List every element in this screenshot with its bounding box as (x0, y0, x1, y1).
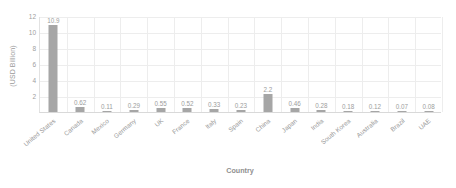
bar-value-label: 0.11 (101, 103, 113, 110)
x-axis-category-label: Canada (62, 117, 84, 137)
x-label-slot: China (253, 115, 280, 161)
x-label-slot: UAE (414, 115, 441, 161)
x-label-slot: Spain (227, 115, 254, 161)
bar-slot: 0.52 (174, 17, 201, 112)
bar-value-label: 0.18 (342, 103, 354, 110)
x-label-slot: Brazil (387, 115, 414, 161)
y-axis-tick: 2 (32, 94, 36, 100)
x-axis-category-label: UK (153, 117, 164, 128)
bar-value-label: 0.29 (128, 102, 140, 109)
bar-value-label: 0.28 (315, 102, 327, 109)
bar[interactable] (183, 108, 192, 112)
bar[interactable] (370, 111, 379, 112)
gridline-vertical (442, 17, 443, 112)
bar-slot: 10.9 (40, 17, 67, 112)
x-label-slot: Germany (119, 115, 146, 161)
bar-slot: 0.55 (147, 17, 174, 112)
x-axis-category-label: United States (23, 117, 57, 147)
bar[interactable] (102, 111, 111, 112)
y-axis-tick: 12 (29, 14, 36, 20)
plot-area: 10.90.620.110.290.550.520.330.232.20.460… (39, 17, 441, 113)
x-label-slot: Australia (361, 115, 388, 161)
bar-value-label: 10.9 (47, 17, 59, 24)
bar-slot: 0.11 (94, 17, 121, 112)
bar-slot: 0.33 (201, 17, 228, 112)
bar[interactable] (290, 108, 299, 112)
y-axis-tick: 4 (32, 78, 36, 84)
y-axis-tick-labels: 24681012 (18, 14, 36, 114)
x-axis-category-label: India (310, 117, 325, 131)
bar-slot: 0.18 (335, 17, 362, 112)
x-axis-category-label: France (171, 117, 191, 135)
x-label-slot: Japan (280, 115, 307, 161)
y-axis-tick: 6 (32, 62, 36, 68)
bar-value-label: 0.23 (235, 102, 247, 109)
bar-value-label: 0.62 (74, 99, 86, 106)
bar-series: 10.90.620.110.290.550.520.330.232.20.460… (40, 17, 441, 112)
bar-slot: 2.2 (254, 17, 281, 112)
bar-slot: 0.12 (362, 17, 389, 112)
bar[interactable] (210, 109, 219, 112)
x-axis-category-label: Italy (204, 117, 218, 130)
bar[interactable] (344, 111, 353, 112)
y-axis-tick: 8 (32, 46, 36, 52)
y-axis-tick: 10 (29, 30, 36, 36)
x-axis-category-labels: United StatesCanadaMexicoGermanyUKFrance… (39, 115, 441, 161)
bar-slot: 0.46 (281, 17, 308, 112)
x-label-slot: South Korea (334, 115, 361, 161)
bar-slot: 0.29 (120, 17, 147, 112)
bar-slot: 0.23 (228, 17, 255, 112)
bar[interactable] (263, 94, 272, 112)
bar[interactable] (317, 110, 326, 112)
bar[interactable] (76, 107, 85, 112)
x-axis-category-label: China (254, 117, 271, 133)
bar-value-label: 0.55 (154, 100, 166, 107)
x-axis-category-label: Spain (227, 117, 244, 133)
bar-slot: 0.07 (388, 17, 415, 112)
x-label-slot: UK (146, 115, 173, 161)
x-label-slot: Italy (200, 115, 227, 161)
bar[interactable] (129, 110, 138, 112)
y-axis-title: (USD Billion) (9, 28, 16, 104)
bar-slot: 0.62 (67, 17, 94, 112)
bar[interactable] (49, 25, 58, 112)
bar-value-label: 0.33 (208, 101, 220, 108)
x-axis-category-label: Japan (280, 117, 298, 134)
x-label-slot: Canada (66, 115, 93, 161)
bar[interactable] (236, 110, 245, 112)
bar-value-label: 0.07 (396, 103, 408, 110)
bar-value-label: 0.08 (422, 103, 434, 110)
bar-slot: 0.08 (415, 17, 442, 112)
bar-value-label: 0.46 (288, 100, 300, 107)
x-axis-title: Country (39, 166, 441, 175)
bar[interactable] (424, 111, 433, 112)
bar[interactable] (397, 111, 406, 112)
x-axis-category-label: UAE (417, 117, 432, 131)
x-axis-category-label: Mexico (90, 117, 110, 136)
bar-value-label: 0.12 (369, 103, 381, 110)
x-label-slot: France (173, 115, 200, 161)
bar-value-label: 2.2 (263, 86, 272, 93)
bar-slot: 0.28 (308, 17, 335, 112)
x-label-slot: United States (39, 115, 66, 161)
bar[interactable] (156, 108, 165, 112)
bar-chart: (USD Billion) 24681012 10.90.620.110.290… (0, 0, 456, 188)
bar-value-label: 0.52 (181, 100, 193, 107)
x-axis-category-label: Brazil (388, 117, 405, 133)
